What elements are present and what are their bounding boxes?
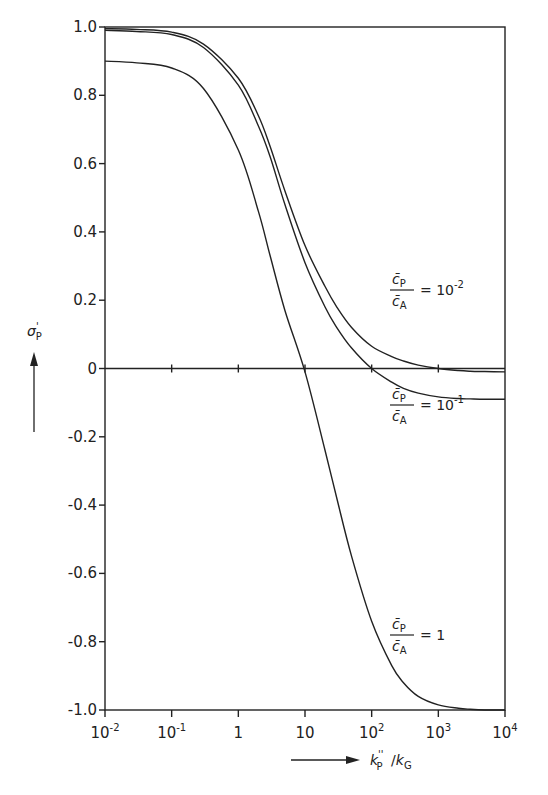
y-tick-label: 0.4	[73, 223, 97, 241]
arrow-head-icon	[346, 756, 360, 764]
x-tick-label: 1	[234, 724, 244, 742]
x-tick-label: 103	[426, 722, 451, 742]
svg-text:c̄P: c̄P	[392, 616, 406, 634]
x-tick-label: 10-2	[90, 722, 119, 742]
series-curve-2	[105, 61, 505, 710]
y-tick-label: -0.6	[68, 564, 97, 582]
svg-text:c̄A: c̄A	[392, 408, 407, 426]
y-tick-label: 0	[87, 360, 97, 378]
y-tick-label: -1.0	[68, 701, 97, 719]
y-axis-ticks: 1.00.80.60.40.20-0.2-0.4-0.6-0.8-1.0	[68, 18, 105, 719]
x-tick-label: 104	[492, 722, 517, 742]
y-tick-label: 0.6	[73, 155, 97, 173]
svg-text:c̄P: c̄P	[392, 271, 406, 289]
svg-text:σ'P: σ'P	[27, 321, 42, 342]
svg-text:= 10-1: = 10-1	[420, 394, 464, 413]
y-tick-label: 0.8	[73, 86, 97, 104]
x-tick-label: 10	[295, 724, 314, 742]
y-tick-label: -0.8	[68, 633, 97, 651]
y-tick-label: -0.2	[68, 428, 97, 446]
x-axis-ticks: 10-210-1110102103104	[90, 710, 517, 742]
y-axis-title: σ'P	[27, 321, 42, 432]
series-annotations: c̄Pc̄A= 10-2c̄Pc̄A= 10-1c̄Pc̄A= 1	[390, 271, 464, 656]
svg-text:c̄A: c̄A	[392, 638, 407, 656]
series-curve-1	[105, 30, 505, 399]
series-label-1: c̄Pc̄A= 10-1	[390, 386, 464, 426]
y-tick-label: -0.4	[68, 496, 97, 514]
x-tick-label: 102	[359, 722, 384, 742]
series-label-0: c̄Pc̄A= 10-2	[390, 271, 464, 311]
line-chart: 1.00.80.60.40.20-0.2-0.4-0.6-0.8-1.0 10-…	[0, 0, 548, 795]
x-tick-label: 10-1	[157, 722, 186, 742]
series-curve-0	[105, 29, 505, 372]
x-axis-title: k''P /kG	[291, 749, 412, 772]
svg-text:c̄A: c̄A	[392, 293, 407, 311]
y-tick-label: 0.2	[73, 291, 97, 309]
arrow-head-icon	[30, 352, 38, 366]
svg-text:= 1: = 1	[420, 627, 445, 643]
svg-text:= 10-2: = 10-2	[420, 279, 464, 298]
y-tick-label: 1.0	[73, 18, 97, 36]
series-label-2: c̄Pc̄A= 1	[390, 616, 445, 656]
svg-text:k''P /kG: k''P /kG	[370, 749, 412, 772]
